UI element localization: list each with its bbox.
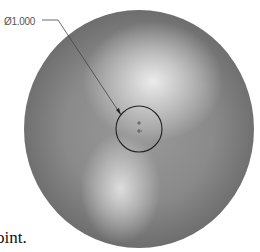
leader-line (42, 20, 121, 115)
center-mark-icon (137, 121, 142, 133)
dimension-label: Ø1.000 (4, 16, 35, 27)
caption-text: oint. (0, 228, 27, 248)
annotation-layer (0, 0, 260, 252)
